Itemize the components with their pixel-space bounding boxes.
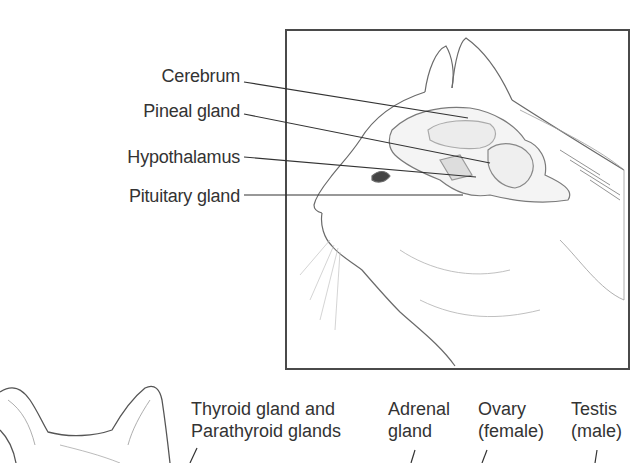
cat-head-drawing (300, 38, 624, 366)
label-cerebrum: Cerebrum (162, 66, 240, 86)
leader-cerebrum (244, 82, 468, 118)
label-hypothalamus: Hypothalamus (127, 147, 240, 167)
tick-testis (595, 450, 597, 463)
label-pituitary-gland: Pituitary gland (129, 186, 240, 206)
tick-ovary (482, 450, 487, 463)
label-testis-line1: Testis (571, 398, 622, 420)
tick-adrenal (411, 450, 415, 463)
label-adrenal: Adrenal gland (388, 398, 450, 442)
illustration-layer (0, 0, 637, 463)
cat-body-drawing (0, 386, 170, 463)
label-ovary-line2: (female) (478, 420, 544, 442)
label-testis-line2: (male) (571, 420, 622, 442)
label-ovary: Ovary (female) (478, 398, 544, 442)
label-adrenal-line2: gland (388, 420, 450, 442)
label-ovary-line1: Ovary (478, 398, 544, 420)
label-thyroid-line2: Parathyroid glands (191, 420, 341, 442)
bottom-leader-ticks (190, 448, 597, 463)
label-thyroid-line1: Thyroid gland and (191, 398, 341, 420)
label-pineal-gland: Pineal gland (143, 101, 240, 121)
label-adrenal-line1: Adrenal (388, 398, 450, 420)
label-thyroid: Thyroid gland and Parathyroid glands (191, 398, 341, 442)
tick-thyroid (190, 448, 197, 463)
label-testis: Testis (male) (571, 398, 622, 442)
